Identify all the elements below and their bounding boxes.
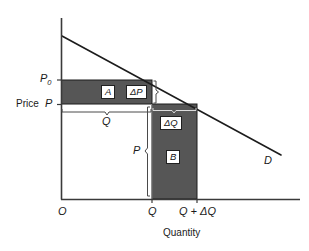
x-tick-label-q-plus-dq: Q + ΔQ [179,206,216,217]
x-tick-q-plus-dq-text: Q + ΔQ [179,205,216,217]
y-tick-p0-subscript: 0 [47,78,51,87]
delta-q-text: ΔQ [164,117,178,128]
x-tick-label-q: Q [148,206,157,217]
delta-p-label: ΔP [126,85,147,99]
brace-p-vertical [145,107,150,196]
demand-curve-label-text: D [264,154,272,166]
y-axis-label: Price [16,99,39,109]
brace-label-q: Q [102,116,111,127]
y-tick-label-p: P [45,98,52,109]
region-b-label: B [166,150,180,164]
brace-delta-p [154,81,159,103]
demand-curve-figure: Price P0 P Q P A ΔP ΔQ B D O Q Q + [0,0,309,251]
x-tick-q-text: Q [148,205,157,217]
demand-curve-label: D [264,155,272,166]
region-b-text: B [170,151,176,162]
delta-q-label: ΔQ [160,116,182,130]
x-axis-label: Quantity [163,228,200,238]
delta-p-text: ΔP [130,86,143,97]
y-tick-label-p0: P0 [40,73,52,87]
region-a-text: A [105,86,111,97]
brace-p-text: P [133,144,140,156]
brace-label-p: P [133,145,140,156]
brace-q-text: Q [102,115,111,127]
region-a-label: A [101,85,115,99]
origin-label: O [58,206,67,217]
origin-label-text: O [58,205,67,217]
y-tick-p-base: P [45,97,52,109]
